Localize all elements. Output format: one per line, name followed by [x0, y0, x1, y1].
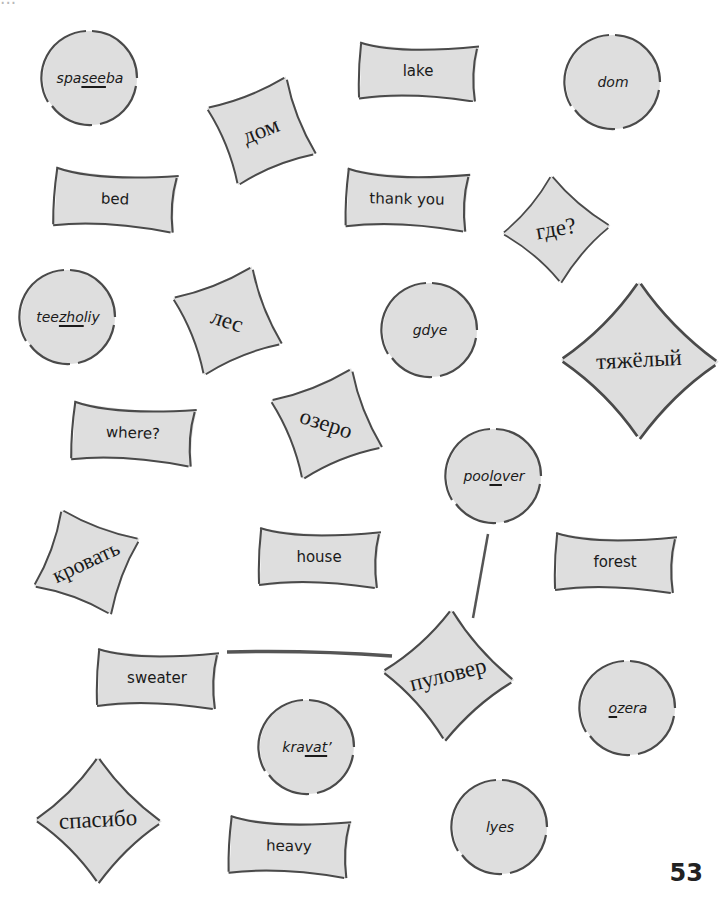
page-number: 53 — [670, 859, 703, 887]
connector-sweater-pulover — [227, 652, 392, 657]
card-bed[interactable]: bed — [51, 164, 179, 234]
card-teezholiy[interactable]: teezholiy — [18, 267, 118, 367]
card-heavy[interactable]: heavy — [226, 811, 351, 881]
card-spaseeba[interactable]: spaseeba — [40, 28, 140, 128]
card-forest[interactable]: forest — [553, 530, 677, 594]
card-dom-tr[interactable]: dom — [563, 32, 663, 132]
card-thank-you[interactable]: thank you — [343, 165, 470, 233]
card-kravat[interactable]: kravat’ — [257, 697, 357, 797]
card-sweater[interactable]: sweater — [95, 645, 219, 711]
card-poolover[interactable]: poolover — [444, 426, 544, 526]
connector-poolover-pulover — [473, 534, 488, 618]
card-ozera[interactable]: ozera — [578, 658, 678, 758]
card-house[interactable]: house — [257, 524, 381, 590]
card-lyes[interactable]: lyes — [450, 777, 550, 877]
card-lake[interactable]: lake — [357, 40, 479, 102]
card-gdye[interactable]: gdye — [380, 280, 480, 380]
card-where[interactable]: where? — [69, 398, 197, 468]
